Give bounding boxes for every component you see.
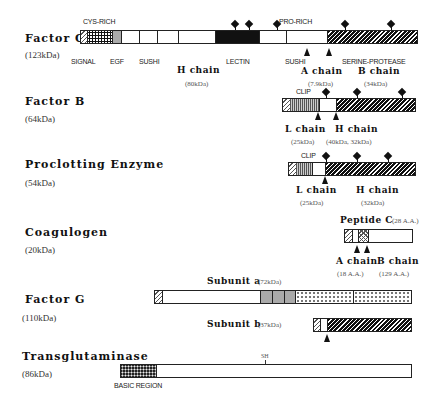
catalytic-region xyxy=(157,365,411,377)
proclotting-enzyme-mw: (54kDa) xyxy=(25,178,55,188)
linker-region xyxy=(320,99,337,111)
coagulogen-name: Coagulogen xyxy=(25,226,108,239)
sushi-domain-2 xyxy=(140,31,158,43)
cleavage-site-arrow-icon xyxy=(304,48,310,56)
factor-g-mw: (110kDa) xyxy=(22,313,56,323)
linker-region xyxy=(313,163,326,175)
proclotting-l-chain-mw: (25kDa) xyxy=(300,199,323,207)
h-chain-spacer xyxy=(179,31,216,43)
a-chain-region xyxy=(345,230,353,242)
sushi-domain-3 xyxy=(158,31,179,43)
grey-domain-1 xyxy=(261,291,273,303)
sushi-domain-4 xyxy=(287,31,328,43)
peptide-c-mw: (28 A.A.) xyxy=(392,217,419,225)
label-serine-protease: SERINE-PROTEASE xyxy=(342,58,406,65)
factor-b-h-chain: H chain xyxy=(335,124,378,134)
label-sushi-1: SUSHI xyxy=(139,58,159,65)
glycosylation-site-icon xyxy=(235,24,236,30)
factor-c-h-chain: H chain xyxy=(177,65,220,75)
coagulogen-b-chain: B chain xyxy=(377,256,419,266)
transglutaminase-bar xyxy=(120,364,412,378)
factor-c-bar xyxy=(80,30,418,44)
coagulogen-mw: (20kDa) xyxy=(25,245,55,255)
lectin-domain xyxy=(216,31,260,43)
signal-domain xyxy=(289,163,296,175)
coagulogen-a-chain: A chain xyxy=(336,256,377,266)
signal-domain xyxy=(155,291,163,303)
subunit-b-label: Subunit b xyxy=(207,319,261,329)
signal-domain xyxy=(81,31,88,43)
factor-c-b-chain: B chain xyxy=(358,66,400,76)
factor-g-subunit-b-bar xyxy=(313,318,412,332)
label-signal: SIGNAL xyxy=(71,58,95,65)
glycosylation-site-icon xyxy=(402,92,403,98)
glycosylation-site-icon xyxy=(388,156,389,162)
label-basic-region: BASIC REGION xyxy=(114,382,162,389)
serine-protease-domain xyxy=(326,163,415,175)
factor-c-h-chain-mw: (80kDa) xyxy=(185,80,208,88)
factor-b-l-chain: L chain xyxy=(285,124,326,134)
factor-b-name: Factor B xyxy=(25,95,85,108)
label-clip-b: CLIP xyxy=(296,88,311,95)
serine-protease-domain xyxy=(337,99,415,111)
proclotting-h-chain: H chain xyxy=(356,185,399,195)
subunit-b-mw: (37kDa) xyxy=(258,321,281,329)
egf-domain xyxy=(113,31,122,43)
glycosylation-site-icon xyxy=(277,24,278,30)
cleavage-site-arrow-icon xyxy=(364,245,370,253)
cys-rich-domain xyxy=(88,31,113,43)
serine-protease-domain xyxy=(328,31,417,43)
glycosylation-site-icon xyxy=(345,24,346,30)
label-cys-rich: CYS-RICH xyxy=(83,18,115,25)
signal-domain xyxy=(314,319,321,331)
transglutaminase-name: Transglutaminase xyxy=(22,350,149,363)
label-pro-rich: PRO-RICH xyxy=(279,18,312,25)
label-sushi-2: SUSHI xyxy=(285,58,305,65)
cleavage-site-arrow-icon xyxy=(324,334,330,342)
cleavage-site-arrow-icon xyxy=(322,176,328,184)
label-clip-pe: CLIP xyxy=(301,152,316,159)
subunit-a-label: Subunit a xyxy=(207,276,260,286)
clip-domain xyxy=(296,163,313,175)
n-terminal-region xyxy=(163,291,261,303)
proclotting-enzyme-bar xyxy=(288,162,416,176)
cleavage-site-arrow-icon xyxy=(354,245,360,253)
coagulogen-bar xyxy=(344,229,413,243)
factor-c-mw: (123kDa) xyxy=(25,50,60,60)
grey-domain-2 xyxy=(273,291,285,303)
factor-g-subunit-a-bar xyxy=(154,290,412,304)
b-chain-region xyxy=(369,230,412,242)
factor-c-b-chain-mw: (34kDa) xyxy=(364,80,387,88)
clip-domain xyxy=(290,99,320,111)
factor-b-mw: (64kDa) xyxy=(25,114,55,124)
coagulogen-b-chain-mw: (129 A.A.) xyxy=(379,270,409,278)
dotted-domain-1 xyxy=(296,291,354,303)
coagulogen-a-chain-mw: (18 A.A.) xyxy=(337,270,364,278)
grey-domain-3 xyxy=(285,291,296,303)
cleavage-site-arrow-icon xyxy=(315,112,321,120)
transglutaminase-mw: (86kDa) xyxy=(22,369,52,379)
serine-protease-domain xyxy=(328,319,411,331)
peptide-c-region xyxy=(359,230,369,242)
factor-b-h-chain-mw: (40kDa, 32kDa) xyxy=(326,138,372,146)
proclotting-enzyme-name: Proclotting Enzyme xyxy=(25,158,164,171)
glycosylation-site-icon xyxy=(249,24,250,30)
proclotting-h-chain-mw: (32kDa) xyxy=(361,199,384,207)
glycosylation-site-icon xyxy=(391,24,392,30)
subunit-a-mw: (72kDa) xyxy=(258,278,281,286)
glycosylation-site-icon xyxy=(326,156,327,162)
factor-b-l-chain-mw: (25kDa) xyxy=(291,138,314,146)
label-lectin: LECTIN xyxy=(226,58,250,65)
sh-label: SH xyxy=(261,353,269,359)
factor-g-name: Factor G xyxy=(25,293,85,306)
cleavage-site-arrow-icon xyxy=(326,48,332,56)
proclotting-l-chain: L chain xyxy=(296,185,337,195)
factor-b-bar xyxy=(282,98,416,112)
glycosylation-site-icon xyxy=(326,92,327,98)
cleavage-site-arrow-icon xyxy=(333,112,339,120)
label-egf: EGF xyxy=(110,58,124,65)
glycosylation-site-icon xyxy=(357,92,358,98)
factor-c-a-chain: A chain xyxy=(301,66,342,76)
glycosylation-site-icon xyxy=(357,156,358,162)
dotted-domain-2 xyxy=(354,291,411,303)
